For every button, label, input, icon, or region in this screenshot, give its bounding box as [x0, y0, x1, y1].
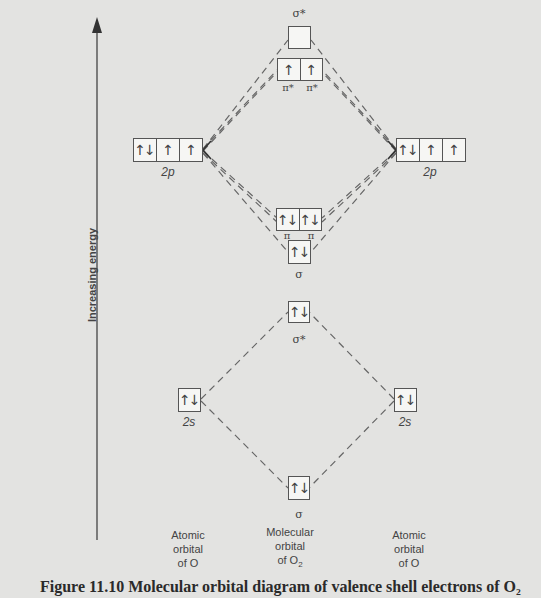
orbital-cell: ↑↓ — [299, 209, 322, 230]
column-label-right: Atomic orbital of O — [392, 528, 426, 570]
sigma-2s-label: σ — [295, 508, 303, 521]
mo-diagram: Increasing energy ↑↓ ↑ ↑ 2p ↑↓ ↑ ↑ 2p σ*… — [0, 0, 541, 598]
orbital-cell: ↑ — [278, 59, 300, 80]
sigma-star-2p-box — [288, 26, 311, 49]
orbital-cell: ↑↓ — [289, 241, 310, 263]
orbital-cell: ↑ — [442, 139, 465, 161]
left-2p-label: 2p — [161, 165, 174, 179]
left-2s-label: 2s — [183, 415, 196, 429]
column-label-left: Atomic orbital of O — [171, 528, 205, 570]
orbital-cell: ↑↓ — [395, 389, 416, 411]
orbital-cell: ↑ — [179, 139, 202, 161]
sigma-star-2p-label: σ* — [292, 7, 305, 20]
sigma-star-2s-label: σ* — [292, 333, 305, 346]
sigma-2p-label: σ — [295, 268, 303, 281]
orbital-cell: ↑↓ — [179, 389, 200, 411]
orbital-cell: ↑↓ — [277, 209, 299, 230]
connector-lines — [0, 0, 541, 598]
orbital-cell: ↑ — [156, 139, 179, 161]
right-2p-label: 2p — [423, 165, 436, 179]
pi-star-label: π* — [282, 82, 294, 93]
orbital-cell: ↑↓ — [134, 139, 156, 161]
left-2p-box: ↑↓ ↑ ↑ — [133, 138, 203, 162]
left-2s-box: ↑↓ — [178, 388, 201, 412]
right-2p-box: ↑↓ ↑ ↑ — [396, 138, 466, 162]
figure-caption: Figure 11.10 Molecular orbital diagram o… — [40, 578, 521, 596]
pi-star-label: π* — [306, 82, 318, 93]
orbital-cell: ↑ — [419, 139, 442, 161]
sigma-2s-box: ↑↓ — [288, 476, 310, 500]
sigma-star-2s-box: ↑↓ — [288, 301, 310, 323]
pi-star-2p-box: ↑ ↑ — [277, 58, 323, 81]
sigma-2p-box: ↑↓ — [288, 240, 311, 264]
orbital-cell: ↑↓ — [289, 302, 310, 322]
column-label-middle: Molecular orbital of O2 — [266, 525, 314, 572]
orbital-cell: ↑ — [300, 59, 323, 80]
right-2s-label: 2s — [399, 415, 412, 429]
orbital-cell: ↑↓ — [397, 139, 419, 161]
axis-label: Increasing energy — [86, 228, 98, 322]
orbital-cell — [289, 27, 310, 48]
right-2s-box: ↑↓ — [394, 388, 417, 412]
pi-2p-box: ↑↓ ↑↓ — [276, 208, 322, 231]
arrow-up-icon — [92, 17, 102, 33]
orbital-cell: ↑↓ — [289, 477, 310, 499]
